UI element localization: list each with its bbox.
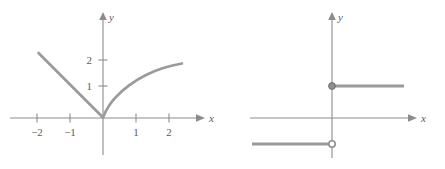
right-y-axis-label: y (337, 11, 343, 23)
right-chart-panel: x y (222, 0, 445, 169)
right-chart-svg: x y (222, 0, 445, 169)
left-y-axis-arrow-icon (99, 12, 107, 20)
right-x-axis-label: x (420, 112, 426, 124)
right-y-axis-arrow-icon (328, 12, 336, 20)
left-x-axis-label: x (208, 112, 214, 124)
left-chart-svg: −2 −1 1 2 1 2 x y (0, 0, 222, 169)
left-x-tick-label--1: −1 (64, 126, 76, 138)
left-x-tick-label-1: 1 (133, 126, 139, 138)
left-branch-line (39, 53, 104, 118)
left-x-axis-arrow-icon (196, 114, 205, 122)
filled-endpoint-marker (329, 83, 336, 90)
left-y-tick-label-1: 1 (87, 80, 93, 92)
left-y-tick-label-2: 2 (87, 54, 93, 66)
right-x-axis-arrow-icon (408, 114, 417, 122)
right-branch-curve (103, 64, 182, 118)
figure-container: −2 −1 1 2 1 2 x y x y (0, 0, 445, 169)
left-chart-panel: −2 −1 1 2 1 2 x y (0, 0, 222, 169)
open-endpoint-marker (329, 141, 335, 147)
left-x-tick-label-2: 2 (166, 126, 172, 138)
left-x-tick-label--2: −2 (31, 126, 43, 138)
left-y-axis-label: y (108, 11, 114, 23)
